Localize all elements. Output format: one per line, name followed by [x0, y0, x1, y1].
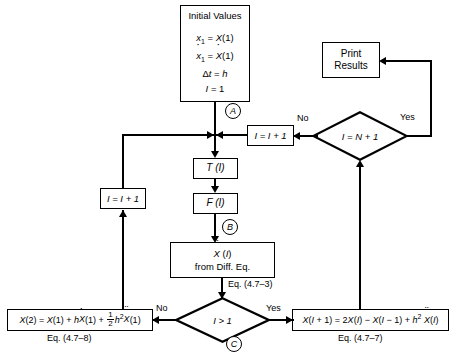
node-increment-left: I = I + 1 — [100, 188, 146, 209]
line-loop-yes-right — [406, 135, 432, 137]
node-equation-left: X(2) = X(1) + hX(1) + 12h2X(1) — [7, 309, 153, 331]
acceleration-line-1: X (I) — [214, 248, 232, 260]
line-equation-left-up — [122, 210, 124, 310]
first-step-no-label: No — [156, 303, 168, 313]
arrow-into-first-step-test — [218, 292, 226, 299]
line-equation-right-up — [359, 162, 361, 310]
line-increment-left-up — [122, 134, 124, 189]
line-initial-to-junction — [214, 102, 216, 155]
node-acceleration: X (I) from Diff. Eq. — [170, 242, 275, 278]
node-t-of-i: T (I) — [193, 158, 238, 179]
initial-values-heading: Initial Values — [188, 10, 241, 22]
equation-left-label: X(2) = X(1) + hX(1) + 12h2X(1) — [19, 312, 140, 329]
equation-right-label: X(I + 1) = 2X(I) − X(I − 1) + h2 X(I) — [303, 313, 439, 326]
line-loop-yes-to-print — [381, 60, 432, 62]
node-increment-right: I = I + 1 — [247, 125, 294, 146]
increment-right-label: I = I + 1 — [254, 130, 286, 142]
initial-values-line-4: I = 1 — [206, 83, 225, 95]
loop-test-no-label: No — [297, 113, 309, 123]
arrow-into-t-of-i — [211, 151, 219, 158]
node-f-of-i: F (I) — [193, 193, 238, 214]
flowchart-canvas: Initial Values x1 = X(1) x1 = X(1) Δt = … — [0, 0, 455, 355]
arrow-junction-from-left — [207, 131, 214, 139]
equation-left-ref: Eq. (4.7–8) — [47, 333, 92, 343]
increment-left-label: I = I + 1 — [107, 193, 139, 205]
loop-test-yes-label: Yes — [400, 112, 415, 122]
arrow-into-print-results — [379, 57, 386, 65]
loop-test-label: I = N + 1 — [342, 131, 378, 142]
arrow-into-accel — [211, 236, 219, 243]
initial-values-line-2: x1 = X(1) — [196, 50, 233, 65]
decision-loop-test: I = N + 1 — [312, 111, 408, 161]
print-results-line-1: Print — [341, 48, 362, 61]
arrow-into-f-of-i — [211, 186, 219, 193]
decision-first-step-test: I > 1 — [175, 297, 270, 343]
equation-right-ref: Eq. (4.7–7) — [338, 333, 383, 343]
arrow-into-equation-right — [286, 316, 293, 324]
print-results-line-2: Results — [334, 60, 367, 73]
connector-b-icon: B — [222, 219, 238, 235]
arrow-into-equation-left — [152, 316, 159, 324]
connector-c-icon: C — [226, 336, 242, 352]
initial-values-line-3: Δt = h — [202, 68, 227, 80]
arrow-into-increment-left — [119, 210, 127, 217]
connector-a-icon: A — [225, 103, 241, 119]
acceleration-eq-ref: Eq. (4.7–3) — [228, 279, 273, 289]
arrow-into-increment-right — [293, 132, 300, 140]
arrow-into-loop-test — [356, 160, 364, 167]
arrow-junction-from-right — [216, 131, 223, 139]
initial-values-line-1: x1 = X(1) — [196, 32, 233, 47]
line-loop-yes-up — [430, 60, 432, 136]
t-of-i-label: T (I) — [206, 162, 224, 175]
node-initial-values: Initial Values x1 = X(1) x1 = X(1) Δt = … — [180, 5, 250, 102]
first-step-test-label: I > 1 — [213, 315, 232, 326]
acceleration-line-2: from Diff. Eq. — [195, 261, 250, 273]
line-increment-left-across — [122, 134, 216, 136]
f-of-i-label: F (I) — [206, 197, 224, 210]
node-print-results: Print Results — [322, 42, 380, 78]
node-equation-right: X(I + 1) = 2X(I) − X(I − 1) + h2 X(I) — [292, 309, 449, 331]
first-step-yes-label: Yes — [266, 303, 281, 313]
